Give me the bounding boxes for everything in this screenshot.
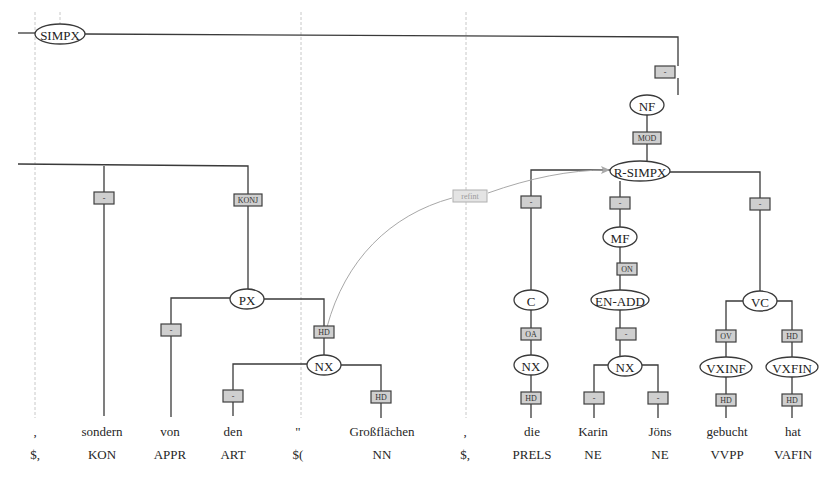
edge-label-text: ON (621, 265, 633, 274)
edge-label-text: HD (375, 393, 387, 402)
node-label: NX (315, 359, 334, 374)
node-label: VC (751, 295, 769, 310)
edge-label-text: - (593, 394, 596, 403)
token-pos-tag: $, (460, 447, 470, 463)
edge-label[interactable]: HD (782, 330, 802, 342)
edge-label[interactable]: - (584, 392, 604, 404)
token-pos-tag: PRELS (512, 447, 551, 463)
token-word[interactable]: gebucht (706, 424, 747, 440)
token-pos-tag: APPR (154, 447, 187, 463)
node-label: PX (239, 293, 256, 308)
token-word[interactable]: von (160, 424, 180, 440)
syntax-tree-canvas: refint SIMPXNFR-SIMPXPXNXCNXMFEN-ADDNXVC… (0, 0, 835, 479)
node-label: MF (611, 231, 630, 246)
token-word[interactable]: sondern (81, 424, 122, 440)
node-label: SIMPX (40, 28, 80, 43)
edge-label-text: HD (786, 396, 798, 405)
edge-label-text: HD (720, 396, 732, 405)
token-pos-tag: $, (30, 447, 40, 463)
token-word[interactable]: Großflächen (350, 424, 415, 440)
node-label: C (527, 294, 536, 309)
token-word[interactable]: , (33, 424, 36, 440)
edge-label-text: - (530, 198, 533, 207)
token-pos-tag: KON (88, 447, 116, 463)
node-mf[interactable]: MF (603, 227, 637, 247)
edge-label[interactable]: HD (371, 391, 391, 403)
edge-label[interactable]: - (521, 196, 541, 208)
token-pos-tag: ART (220, 447, 245, 463)
edge-label-text: OV (720, 332, 732, 341)
node-vc[interactable]: VC (743, 291, 777, 311)
edge-label[interactable]: MOD (633, 132, 661, 144)
edge-label[interactable]: - (648, 392, 668, 404)
secondary-edge-refint: refint (327, 166, 610, 327)
edge-label[interactable]: HD (521, 392, 541, 404)
token-pos-tag: NE (584, 447, 601, 463)
edge-label-text: - (657, 394, 660, 403)
node-c[interactable]: C (514, 290, 548, 310)
token-pos-tag: VVPP (710, 447, 743, 463)
token-word[interactable]: " (295, 424, 300, 440)
edge-label-text: MOD (638, 134, 657, 143)
token-pos-tag: NN (373, 447, 392, 463)
node-nf[interactable]: NF (630, 95, 664, 115)
edge-label[interactable]: - (223, 390, 243, 402)
node-en-add[interactable]: EN-ADD (591, 290, 649, 310)
edge-label[interactable]: ON (617, 263, 637, 275)
node-label: VXINF (706, 361, 746, 376)
tree-edges (18, 33, 792, 418)
token-word[interactable]: Karin (578, 424, 608, 440)
edge-label-text: - (232, 392, 235, 401)
token-word[interactable]: hat (785, 424, 801, 440)
node-label: VXFIN (772, 361, 812, 376)
node-px[interactable]: PX (230, 289, 264, 309)
node-r-simpx[interactable]: R-SIMPX (610, 161, 670, 181)
edge-label-text: - (619, 199, 622, 208)
guide-lines (35, 12, 466, 418)
edge-label[interactable]: - (750, 198, 770, 210)
node-nx-2[interactable]: NX (514, 355, 548, 375)
node-label: NF (639, 99, 656, 114)
token-word[interactable]: , (463, 424, 466, 440)
node-label: NX (522, 359, 541, 374)
edge-label-text: - (170, 326, 173, 335)
edge-label[interactable]: HD (782, 394, 802, 406)
edge-label[interactable]: HD (314, 326, 334, 338)
edge-label[interactable]: - (161, 324, 181, 336)
edge-label-text: OA (525, 330, 537, 339)
token-pos-tag: VAFIN (774, 447, 812, 463)
edge-label-text: HD (525, 394, 537, 403)
edge-label[interactable]: OA (521, 328, 541, 340)
token-pos-tag: NE (651, 447, 668, 463)
edge-label[interactable]: - (610, 197, 630, 209)
token-pos-tag: $( (293, 447, 304, 463)
edge-label-text: - (759, 200, 762, 209)
edge-label[interactable]: - (655, 66, 675, 78)
node-nx-1[interactable]: NX (307, 355, 341, 375)
edge-label[interactable]: - (616, 328, 636, 340)
token-word[interactable]: die (524, 424, 540, 440)
edge-label-text: HD (786, 332, 798, 341)
edge-label[interactable]: HD (716, 394, 736, 406)
token-word[interactable]: Jöns (648, 424, 671, 440)
token-word[interactable]: den (224, 424, 243, 440)
node-label: EN-ADD (595, 294, 645, 309)
node-vxinf[interactable]: VXINF (700, 357, 752, 377)
edge-label[interactable]: KONJ (234, 194, 262, 206)
node-vxfin[interactable]: VXFIN (766, 357, 818, 377)
edge-label-text: HD (318, 328, 330, 337)
edge-label-text: - (625, 330, 628, 339)
node-simpx[interactable]: SIMPX (35, 24, 85, 44)
secondary-edge-label: refint (461, 192, 479, 201)
node-label: NX (616, 360, 635, 375)
edge-label-text: - (664, 68, 667, 77)
edge-label-text: KONJ (238, 196, 258, 205)
edge-label-text: - (103, 194, 106, 203)
phrase-nodes: SIMPXNFR-SIMPXPXNXCNXMFEN-ADDNXVCVXINFVX… (35, 24, 818, 377)
edge-labels: -MOD-KONJ-HD-HD---ONOA-HD--OVHDHDHD (94, 66, 802, 406)
edge-label[interactable]: - (94, 192, 114, 204)
node-nx-3[interactable]: NX (608, 356, 642, 376)
edge-label[interactable]: OV (716, 330, 736, 342)
node-label: R-SIMPX (614, 165, 667, 180)
